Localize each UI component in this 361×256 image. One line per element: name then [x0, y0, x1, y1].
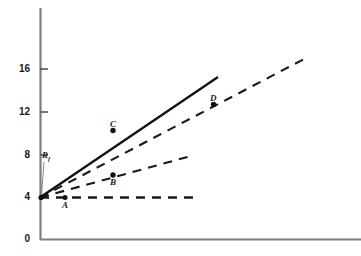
rf-leader-line — [42, 162, 45, 195]
chart-figure: 16 12 8 4 0 Rf A B C D — [0, 0, 361, 256]
data-point-label-A: A — [62, 200, 68, 210]
y-tick-label-0: 0 — [8, 233, 30, 244]
y-tick-label-16: 16 — [8, 63, 30, 74]
y-tick-label-4: 4 — [8, 191, 30, 202]
rf-annotation-subscript: f — [48, 155, 50, 162]
rf-annotation-label: Rf — [42, 150, 50, 162]
data-point-label-B: B — [110, 177, 116, 187]
data-point-label-D: D — [210, 93, 217, 103]
data-point-rf — [38, 195, 43, 200]
y-tick-label-8: 8 — [8, 149, 30, 160]
chart-plot-area — [0, 0, 361, 256]
series-line-D — [40, 58, 306, 198]
data-point-label-C: C — [110, 119, 116, 129]
y-tick-label-12: 12 — [8, 106, 30, 117]
series-line-C — [40, 77, 218, 198]
